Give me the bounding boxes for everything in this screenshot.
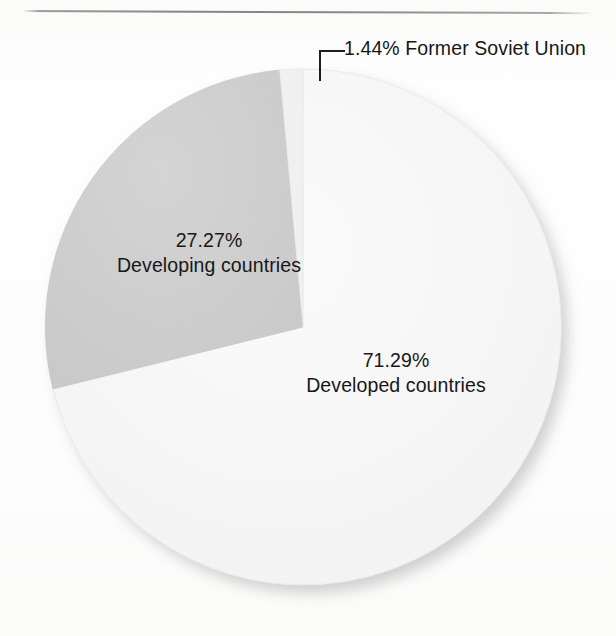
callout-leader-line-horizontal — [319, 50, 345, 52]
slice-label-developing-countries: 27.27% Developing countries — [84, 228, 334, 278]
slice-name-developing: Developing countries — [84, 253, 334, 278]
slice-name-developed: Developed countries — [276, 373, 516, 398]
callout-leader-line-vertical — [319, 50, 321, 81]
slice-percent-developing: 27.27% — [84, 228, 334, 253]
slice-label-former-soviet-union: 1.44% Former Soviet Union — [344, 36, 586, 60]
slice-label-developed-countries: 71.29% Developed countries — [276, 348, 516, 398]
pie-chart: 27.27% Developing countries 71.29% Devel… — [0, 0, 616, 636]
pie-chart-svg — [0, 0, 616, 636]
slice-percent-developed: 71.29% — [276, 348, 516, 373]
page-root: 27.27% Developing countries 71.29% Devel… — [0, 0, 616, 636]
